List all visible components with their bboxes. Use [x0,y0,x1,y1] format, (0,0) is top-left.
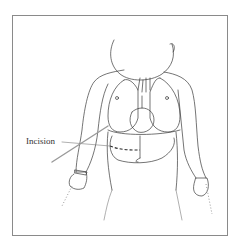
right-hand-line [206,184,212,214]
right-shoulder [164,72,206,178]
abdominal-contour [107,132,177,190]
left-wrist-band [75,170,87,175]
left-tube [52,126,108,162]
right-lung [150,78,180,132]
anatomy-illustration [0,0,238,248]
incision-leader-line [62,142,110,146]
left-hand-line [62,186,72,206]
right-arm-inner [178,90,196,178]
incision-line [110,146,140,150]
left-lung [108,79,138,132]
incision-label: Incision [26,136,55,146]
right-hand [193,178,208,196]
left-nipple [116,97,119,100]
stomach [136,136,140,162]
head-outline [111,40,174,80]
lower-torso [104,190,182,220]
left-shoulder [76,70,124,172]
liver [110,136,175,163]
right-nipple [166,97,169,100]
